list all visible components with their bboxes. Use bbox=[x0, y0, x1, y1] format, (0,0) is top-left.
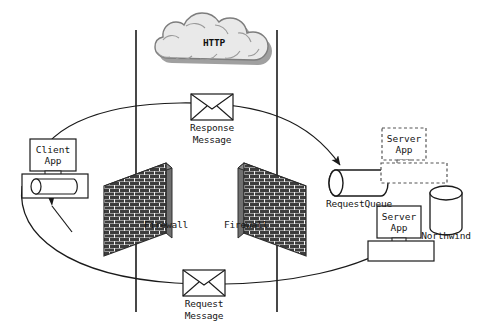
cloud-label: HTTP bbox=[194, 38, 234, 49]
client-app-label-line1: Client bbox=[36, 144, 70, 155]
northwind-label: Northwind bbox=[404, 231, 488, 242]
request-queue-icon bbox=[329, 170, 388, 196]
response-message-label-line2: Message bbox=[178, 135, 246, 146]
northwind-database-icon bbox=[430, 186, 462, 235]
server-app-ghost-label-line2: App bbox=[395, 144, 412, 155]
client-app-label-line2: App bbox=[44, 155, 61, 166]
request-message-label-line2: Message bbox=[170, 311, 238, 322]
firewall-right-icon bbox=[238, 163, 306, 256]
server-app-ghost-label-line1: Server bbox=[387, 133, 421, 144]
firewall-left-label: Firewall bbox=[136, 220, 196, 231]
response-message-icon bbox=[191, 94, 233, 120]
client-app-label: Client App bbox=[30, 139, 76, 171]
server-app-label-line1: Server bbox=[382, 211, 416, 222]
firewall-left-icon bbox=[104, 163, 172, 256]
architecture-diagram: HTTP Client App Response Message Request… bbox=[0, 0, 495, 336]
firewall-right-label: Firewall bbox=[216, 220, 276, 231]
server-app-ghost-label: Server App bbox=[382, 128, 426, 160]
response-message-label-line1: Response bbox=[178, 123, 246, 134]
client-inbound-connector bbox=[52, 206, 72, 232]
request-message-icon bbox=[183, 270, 225, 296]
request-message-label-line1: Request bbox=[170, 299, 238, 310]
